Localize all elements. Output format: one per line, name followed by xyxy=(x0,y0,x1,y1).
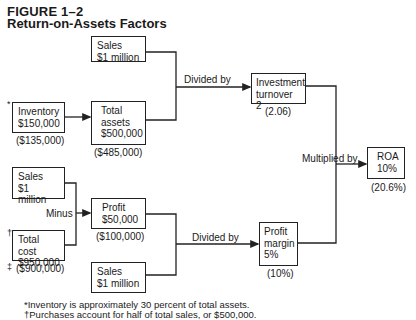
node-total-cost: Total cost $950,000 xyxy=(12,230,65,261)
node-investment-turnover: Investment turnover 2 xyxy=(251,73,306,104)
footnote-marker-double-dagger: ‡ xyxy=(7,262,12,272)
node-sales-bottom: Sales $1 million xyxy=(91,262,146,293)
node-inventory: Inventory $150,000 xyxy=(12,102,65,133)
node-roa: ROA 10% xyxy=(367,147,405,179)
node-profit: Profit $50,000 xyxy=(91,198,146,229)
node-sales-left: Sales $1 million xyxy=(12,167,65,199)
investment-turnover-alt-value: (2.06) xyxy=(265,106,291,117)
node-sales-top: Sales $1 million xyxy=(91,36,146,62)
roa-alt-value: (20.6%) xyxy=(371,182,406,193)
op-divided-by-bottom: Divided by xyxy=(192,232,239,243)
op-divided-by-top: Divided by xyxy=(184,74,231,85)
profit-margin-alt-value: (10%) xyxy=(267,268,294,279)
op-minus: Minus xyxy=(46,208,73,219)
inventory-alt-value: ($135,000) xyxy=(16,135,64,146)
footnote-marker-asterisk: * xyxy=(7,99,11,109)
op-multiplied-by: Multiplied by xyxy=(302,153,358,164)
total-cost-alt-value: ($900,000) xyxy=(16,263,64,274)
profit-alt-value: ($100,000) xyxy=(96,231,144,242)
node-total-assets: Total assets $500,000 xyxy=(91,101,146,145)
node-profit-margin: Profit margin 5% xyxy=(259,222,298,266)
total-assets-alt-value: ($485,000) xyxy=(94,147,142,158)
footnote-2: †Purchases account for half of total sal… xyxy=(24,309,256,320)
